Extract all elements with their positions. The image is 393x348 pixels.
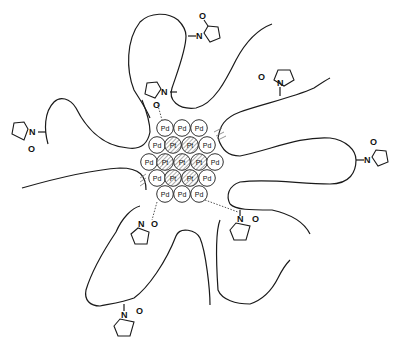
o-label: O [258, 72, 265, 82]
pt-atom: Pt [165, 137, 182, 154]
svg-text:Pd: Pd [178, 191, 187, 198]
o-label: O [136, 306, 143, 316]
pd-atom: Pd [207, 154, 224, 171]
pt-atom: Pt [182, 170, 199, 187]
chain-left-upper [46, 99, 150, 149]
svg-text:Pt: Pt [179, 159, 186, 166]
chain-left-lower [22, 168, 146, 190]
pyrrolidone-bottom: N O [114, 304, 143, 336]
svg-text:Pd: Pd [178, 125, 187, 132]
pyrrolidone-top: N O [188, 11, 220, 42]
svg-text:Pd: Pd [145, 159, 154, 166]
o-label: O [28, 144, 35, 154]
n-label: N [161, 87, 168, 97]
n-label: N [364, 155, 371, 165]
svg-text:Pt: Pt [162, 159, 169, 166]
chain-right-upper [218, 78, 330, 138]
svg-text:Pd: Pd [203, 175, 212, 182]
o-label: O [370, 137, 377, 147]
pd-atom: Pd [191, 186, 208, 203]
n-label: N [196, 31, 203, 41]
chain-bottom-right [217, 220, 290, 304]
pt-atom: Pt [191, 154, 208, 171]
pvp-nanoparticle-diagram: PdPdPdPdPtPtPdPdPtPtPtPdPdPtPtPdPdPdPd N… [0, 0, 393, 348]
svg-text:Pt: Pt [170, 142, 177, 149]
pd-atom: Pd [191, 120, 208, 137]
pd-atom: Pd [149, 170, 166, 187]
pd-atom: Pd [149, 137, 166, 154]
bond-bottom-left [152, 202, 157, 220]
n-label: N [121, 310, 128, 320]
svg-text:Pt: Pt [187, 142, 194, 149]
pyrrolidone-upper-right: N O [258, 70, 294, 96]
pd-atom: Pd [157, 186, 174, 203]
pt-atom: Pt [182, 137, 199, 154]
o-label: O [199, 11, 206, 21]
svg-text:Pt: Pt [196, 159, 203, 166]
n-label: N [29, 127, 36, 137]
pt-atom: Pt [174, 154, 191, 171]
pt-atom: Pt [157, 154, 174, 171]
pyrrolidone-right: N O [356, 137, 388, 166]
pd-atom: Pd [141, 154, 158, 171]
chain-top-loop [129, 14, 272, 118]
pd-atom: Pd [157, 120, 174, 137]
svg-text:Pt: Pt [187, 175, 194, 182]
svg-text:Pd: Pd [195, 191, 204, 198]
pyrrolidone-bottom-left: N O [131, 219, 158, 244]
svg-text:Pt: Pt [170, 175, 177, 182]
svg-text:Pd: Pd [153, 142, 162, 149]
nanoparticle-core: PdPdPdPdPtPtPdPdPtPtPtPdPdPtPtPdPdPdPd [141, 120, 224, 203]
svg-text:Pd: Pd [161, 191, 170, 198]
svg-text:Pd: Pd [211, 159, 220, 166]
pyrrolidone-bottom-right: N O [230, 210, 259, 240]
chain-right-loop [218, 138, 356, 204]
o-label: O [153, 100, 160, 110]
n-label: N [237, 214, 244, 224]
pyrrolidone-left: N O [12, 122, 46, 154]
svg-text:Pd: Pd [195, 125, 204, 132]
o-label: O [252, 214, 259, 224]
svg-text:Pd: Pd [203, 142, 212, 149]
pt-atom: Pt [165, 170, 182, 187]
pd-atom: Pd [199, 170, 216, 187]
pd-atom: Pd [199, 137, 216, 154]
svg-text:Pd: Pd [153, 175, 162, 182]
svg-text:Pd: Pd [161, 125, 170, 132]
pd-atom: Pd [174, 186, 191, 203]
chain-bottom-loop [86, 206, 210, 306]
n-label: N [138, 219, 145, 229]
o-label: O [151, 219, 158, 229]
pd-atom: Pd [174, 120, 191, 137]
